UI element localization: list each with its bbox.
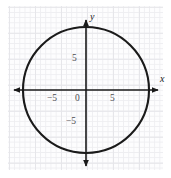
y-tick-label-pos5: 5 xyxy=(72,54,77,64)
y-axis-name: y xyxy=(90,12,94,22)
x-tick-label-pos5: 5 xyxy=(110,94,115,104)
coordinate-plane xyxy=(0,0,171,178)
x-axis-name: x xyxy=(160,74,164,84)
graph-figure: −5 0 5 5 −5 x y xyxy=(0,0,171,178)
x-tick-label-neg5: −5 xyxy=(47,94,57,104)
y-tick-label-neg5: −5 xyxy=(66,117,76,127)
x-tick-label-zero: 0 xyxy=(75,94,80,104)
